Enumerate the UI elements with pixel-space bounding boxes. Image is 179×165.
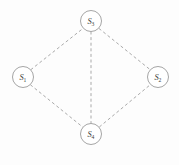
edge-s3-s2 xyxy=(99,28,150,69)
edge-s4-s2 xyxy=(99,85,150,127)
edge-group xyxy=(30,28,150,127)
figure-caption: 图 拓扑结构 xyxy=(0,156,179,165)
edge-s1-s4 xyxy=(30,85,83,128)
node-s4[interactable]: S4 xyxy=(81,124,102,145)
topology-graph: S3 S1 S2 S4 xyxy=(0,0,179,165)
node-s2[interactable]: S2 xyxy=(148,67,169,88)
figure-container: S3 S1 S2 S4 图 拓扑结构 xyxy=(0,0,179,165)
edge-s1-s3 xyxy=(31,28,84,70)
node-s1[interactable]: S1 xyxy=(13,67,34,88)
node-s3[interactable]: S3 xyxy=(81,11,102,32)
